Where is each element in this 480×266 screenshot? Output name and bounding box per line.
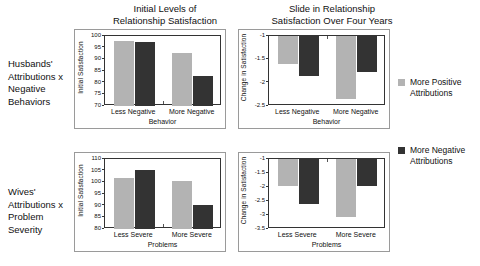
bar-negative (193, 205, 213, 229)
x-axis-title: Behavior (104, 117, 221, 126)
legend-item-more-negative: More Negative Attributions (398, 145, 478, 167)
y-axis-title: Initial Satisfaction (74, 30, 86, 104)
x-category-label: Less Severe (104, 230, 163, 239)
bar-negative (357, 159, 377, 186)
y-tick-label: -2 (260, 79, 265, 85)
y-axis-ticks: -1-1.5-2-2.5 (250, 35, 267, 105)
chart-panel-husbands-change: Change in Satisfaction-1-1.5-2-2.5Less N… (238, 29, 390, 129)
y-tick-label: 100 (91, 32, 101, 38)
y-tick-label: 80 (94, 79, 101, 85)
row-label-husbands: Husbands' Attributions x Negative Behavi… (8, 58, 70, 108)
y-tick-label: -1.5 (255, 55, 265, 61)
y-axis-ticks: 80859095100105110 (86, 158, 103, 228)
y-tick-label: 95 (94, 190, 101, 196)
legend-swatch-icon-negative (398, 147, 405, 154)
plot-area (104, 35, 221, 105)
y-axis-ticks: 707580859095100 (86, 35, 103, 105)
x-category-label: More Severe (163, 230, 222, 239)
legend-swatch-icon-positive (398, 79, 405, 86)
x-category-label: More Severe (327, 230, 386, 239)
axis-mid-tick (327, 159, 328, 162)
bar-negative (357, 36, 377, 72)
legend-item-more-positive: More Positive Attributions (398, 77, 478, 99)
y-tick-label: -1 (260, 155, 265, 161)
bar-positive (172, 181, 192, 229)
x-axis-title: Problems (104, 240, 221, 249)
y-tick-label: -3.5 (255, 225, 265, 231)
chart-panel-wives-initial: Initial Satisfaction80859095100105110Les… (74, 152, 226, 252)
bar-positive (336, 159, 356, 217)
y-tick-label: 85 (94, 213, 101, 219)
axis-mid-tick (327, 36, 328, 39)
y-tick-label: 90 (94, 202, 101, 208)
column-title-initial-levels: Initial Levels ofRelationship Satisfacti… (100, 3, 230, 27)
chart-panel-wives-change: Change in Satisfaction-1-1.5-2-2.5-3-3.5… (238, 152, 390, 252)
bar-positive (114, 41, 134, 106)
y-tick-label: 70 (94, 102, 101, 108)
x-category-label: Less Negative (268, 107, 327, 116)
y-tick-label: 110 (91, 155, 101, 161)
x-category-label: More Negative (327, 107, 386, 116)
x-category-label: More Negative (163, 107, 222, 116)
axis-mid-tick (163, 101, 164, 104)
axis-mid-tick (163, 224, 164, 227)
x-category-label: Less Negative (104, 107, 163, 116)
figure-panel-grid: Initial Levels ofRelationship Satisfacti… (0, 0, 480, 266)
y-tick-label: -2.5 (255, 197, 265, 203)
y-tick-label: 75 (94, 90, 101, 96)
y-tick-label: -1 (260, 32, 265, 38)
y-axis-ticks: -1-1.5-2-2.5-3-3.5 (250, 158, 267, 228)
y-axis-title: Change in Satisfaction (238, 153, 250, 227)
bar-positive (278, 159, 298, 186)
bar-negative (135, 42, 155, 106)
column-title-slide: Slide in RelationshipSatisfaction Over F… (262, 3, 402, 27)
legend-label-positive: More Positive Attributions (410, 77, 478, 99)
x-axis-title: Problems (268, 240, 385, 249)
bar-positive (278, 36, 298, 64)
plot-area (268, 35, 385, 105)
plot-area (268, 158, 385, 228)
plot-area (104, 158, 221, 228)
y-tick-label: 100 (91, 178, 101, 184)
y-tick-label: -2.5 (255, 102, 265, 108)
row-label-wives: Wives' Attributions x Problem Severity (8, 186, 70, 236)
x-axis-title: Behavior (268, 117, 385, 126)
y-tick-label: 80 (94, 225, 101, 231)
y-axis-title: Change in Satisfaction (238, 30, 250, 104)
y-tick-label: -3 (260, 211, 265, 217)
bar-positive (114, 178, 134, 229)
bar-positive (336, 36, 356, 99)
y-tick-label: 85 (94, 67, 101, 73)
y-tick-label: 95 (94, 44, 101, 50)
bar-negative (299, 159, 319, 204)
bar-negative (135, 170, 155, 229)
y-tick-label: -2 (260, 183, 265, 189)
y-tick-label: 90 (94, 55, 101, 61)
x-category-label: Less Severe (268, 230, 327, 239)
chart-panel-husbands-initial: Initial Satisfaction707580859095100Less … (74, 29, 226, 129)
bar-negative (193, 76, 213, 106)
legend-label-negative: More Negative Attributions (410, 145, 478, 167)
y-axis-title: Initial Satisfaction (74, 153, 86, 227)
y-tick-label: -1.5 (255, 169, 265, 175)
bar-positive (172, 53, 192, 106)
y-tick-label: 105 (91, 167, 101, 173)
bar-negative (299, 36, 319, 76)
